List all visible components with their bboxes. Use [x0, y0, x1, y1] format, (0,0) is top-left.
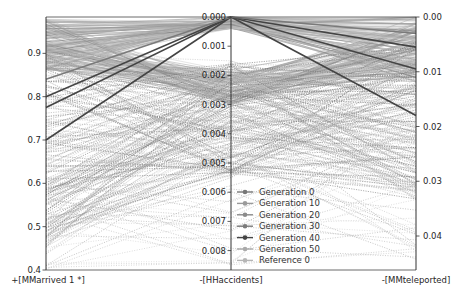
tick-label: 0.007: [202, 216, 226, 226]
tick-label: 0.8: [27, 92, 41, 102]
tick-label: 0.004: [202, 129, 226, 139]
tick-label: 0.003: [202, 100, 226, 110]
legend-label: Generation 40: [259, 233, 320, 243]
legend-entry: Generation 30: [237, 221, 320, 231]
legend-entry: Reference 0: [237, 255, 310, 265]
legend-entry: Generation 50: [237, 244, 320, 254]
axis-label: +[MMarrived 1 *]: [11, 275, 85, 285]
axis-label: -[MMteleported]: [382, 275, 451, 285]
legend-label: Generation 10: [259, 198, 320, 208]
legend-entry: Generation 10: [237, 198, 320, 208]
legend-marker-icon: [243, 201, 248, 206]
legend-entry: Generation 40: [237, 233, 320, 243]
tick-label: 0.00: [423, 12, 442, 22]
legend-marker-icon: [243, 235, 248, 240]
legend-label: Generation 30: [259, 221, 320, 231]
tick-label: 0.01: [423, 67, 442, 77]
tick-label: 0.04: [423, 231, 442, 241]
tick-label: 0.4: [27, 265, 41, 275]
tick-label: 0.001: [202, 41, 226, 51]
legend-entry: Generation 20: [237, 210, 320, 220]
legend-entry: Generation 0: [237, 187, 315, 197]
axis-label: -[HHaccidents]: [199, 275, 262, 285]
tick-label: 0.7: [27, 135, 41, 145]
tick-label: 0.02: [423, 122, 442, 132]
parallel-coordinates-chart: 0.40.50.60.70.80.9+[MMarrived 1 *]0.0000…: [0, 0, 461, 300]
legend-marker-icon: [243, 258, 248, 263]
legend: Generation 0Generation 10Generation 20Ge…: [237, 187, 320, 265]
tick-label: 0.008: [202, 246, 226, 256]
legend-marker-icon: [243, 190, 248, 195]
legend-label: Generation 50: [259, 244, 320, 254]
legend-label: Generation 0: [259, 187, 315, 197]
tick-label: 0.006: [202, 187, 226, 197]
legend-marker-icon: [243, 213, 248, 218]
tick-label: 0.002: [202, 70, 226, 80]
tick-label: 0.005: [202, 158, 226, 168]
tick-label: 0.6: [27, 178, 41, 188]
legend-marker-icon: [243, 247, 248, 252]
legend-label: Generation 20: [259, 210, 320, 220]
tick-label: 0.03: [423, 176, 442, 186]
tick-label: 0.9: [27, 48, 41, 58]
tick-label: 0.000: [202, 12, 226, 22]
tick-label: 0.5: [27, 222, 41, 232]
legend-marker-icon: [243, 224, 248, 229]
legend-label: Reference 0: [259, 255, 310, 265]
